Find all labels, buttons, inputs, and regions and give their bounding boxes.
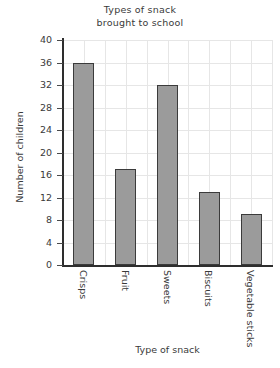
bar-crisps[interactable]: [73, 63, 94, 266]
chart-title-line-1: Types of snack: [0, 4, 280, 17]
y-axis-tick-label: 12: [24, 193, 52, 203]
gridline-vertical: [188, 40, 189, 265]
y-axis-tick: [57, 220, 63, 221]
x-axis-category-label: Vegetable sticks: [245, 270, 255, 348]
gridline-horizontal: [63, 40, 272, 41]
y-axis-tick-label: 32: [24, 80, 52, 90]
gridline-vertical: [105, 40, 106, 265]
y-axis-tick: [57, 85, 63, 86]
x-axis-category-label: Biscuits: [203, 270, 213, 307]
chart-title-line-2: brought to school: [0, 17, 280, 30]
y-axis-tick: [57, 198, 63, 199]
bar-vegetable-sticks[interactable]: [241, 214, 262, 265]
y-axis-tick: [57, 40, 63, 41]
y-axis-tick: [57, 153, 63, 154]
x-axis-category-label: Fruit: [120, 270, 130, 291]
gridline-vertical: [147, 40, 148, 265]
y-axis-tick: [57, 63, 63, 64]
y-axis-tick: [57, 243, 63, 244]
x-axis-line: [62, 265, 273, 267]
y-axis-tick-label: 8: [24, 215, 52, 225]
chart-title: Types of snack brought to school: [0, 4, 280, 29]
x-axis-category-label: Sweets: [162, 270, 172, 304]
gridline-vertical: [230, 40, 231, 265]
plot-area: [63, 40, 272, 265]
y-axis-tick-label: 36: [24, 58, 52, 68]
bar-biscuits[interactable]: [199, 192, 220, 265]
y-axis-tick-label: 20: [24, 148, 52, 158]
bar-fruit[interactable]: [115, 169, 136, 265]
gridline-vertical: [272, 40, 273, 265]
y-axis-tick-label: 4: [24, 238, 52, 248]
y-axis-tick-label: 28: [24, 103, 52, 113]
y-axis-tick: [57, 130, 63, 131]
y-axis-tick: [57, 265, 63, 266]
y-axis-tick-label: 40: [24, 35, 52, 45]
y-axis-tick-label: 24: [24, 125, 52, 135]
bar-sweets[interactable]: [157, 85, 178, 265]
x-axis-category-label: Crisps: [78, 270, 88, 299]
y-axis-tick: [57, 108, 63, 109]
gridline-horizontal: [63, 63, 272, 64]
x-axis-title: Type of snack: [63, 344, 272, 355]
y-axis-tick: [57, 175, 63, 176]
y-axis-tick-label: 0: [24, 260, 52, 270]
y-axis-tick-label: 16: [24, 170, 52, 180]
